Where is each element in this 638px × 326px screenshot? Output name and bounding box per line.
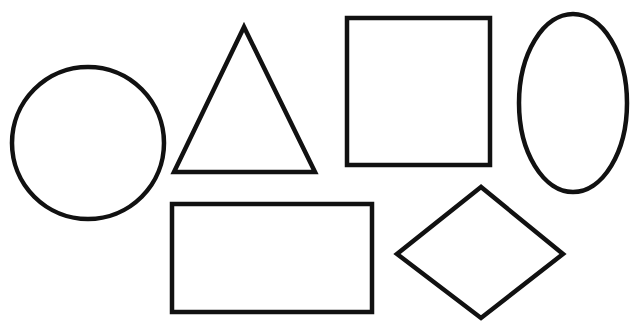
rectangle-shape: [172, 204, 372, 312]
square-shape: [347, 18, 490, 165]
ellipse-shape: [519, 14, 627, 192]
diamond-shape: [397, 187, 563, 318]
circle-shape: [12, 67, 164, 219]
shapes-canvas: [0, 0, 638, 326]
triangle-shape: [174, 27, 315, 172]
